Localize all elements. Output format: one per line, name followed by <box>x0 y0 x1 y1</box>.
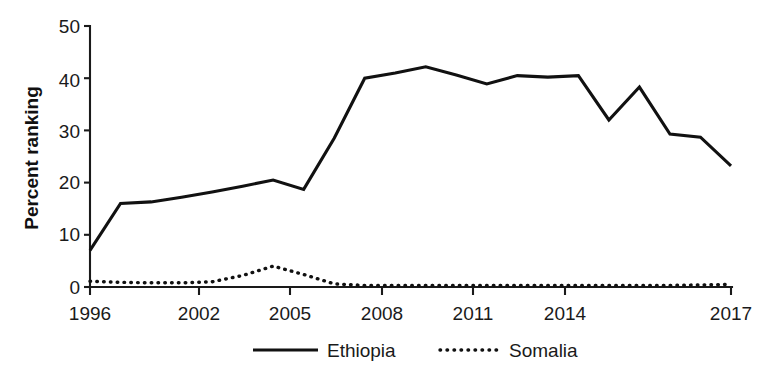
line-chart-canvas: Percent ranking 50 40 30 20 10 0 1996 20… <box>0 0 775 379</box>
y-axis-title: Percent ranking <box>21 86 42 230</box>
series-line-ethiopia <box>90 67 731 251</box>
x-tick-label-2014: 2014 <box>544 303 587 324</box>
chart-figure: Percent ranking 50 40 30 20 10 0 1996 20… <box>0 0 775 379</box>
series-line-somalia <box>90 266 731 285</box>
chart-legend: Ethiopia Somalia <box>253 340 578 361</box>
y-tick-label-30: 30 <box>59 121 80 142</box>
y-tick-label-0: 0 <box>69 277 80 298</box>
legend-label-ethiopia: Ethiopia <box>327 340 396 361</box>
x-tick-label-2008: 2008 <box>361 303 403 324</box>
legend-label-somalia: Somalia <box>509 340 578 361</box>
y-tick-label-10: 10 <box>59 224 80 245</box>
y-tick-label-20: 20 <box>59 172 80 193</box>
x-tick-label-2017: 2017 <box>710 303 752 324</box>
x-tick-label-2011: 2011 <box>453 303 494 324</box>
x-tick-label-2005: 2005 <box>269 303 311 324</box>
x-tick-label-1996: 1996 <box>69 303 111 324</box>
y-tick-label-40: 40 <box>59 70 80 91</box>
x-tick-label-2002: 2002 <box>178 303 220 324</box>
y-tick-label-50: 50 <box>59 16 80 37</box>
